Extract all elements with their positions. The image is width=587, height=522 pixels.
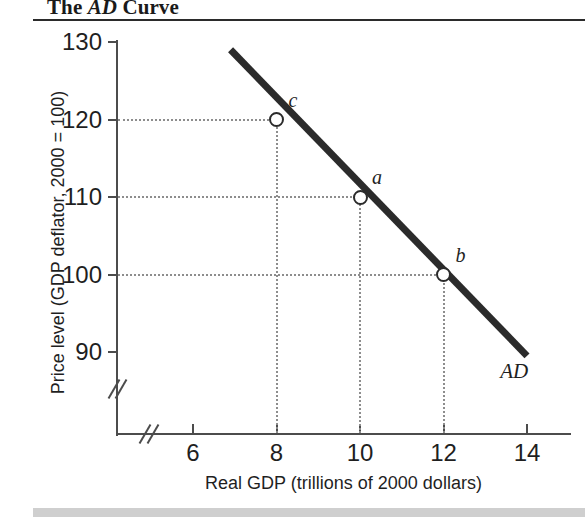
data-point-label-b: b [456, 245, 466, 265]
data-point-label-a: a [372, 167, 382, 187]
data-point-label-c: c [289, 90, 298, 110]
data-point-a[interactable] [353, 190, 368, 205]
ad-curve-label: AD [500, 361, 528, 382]
figure-footer-band [33, 508, 585, 517]
plot-area: 90100110120130 68101214 cab AD Price lev… [0, 0, 587, 522]
x-axis-title: Real GDP (trillions of 2000 dollars) [116, 473, 571, 494]
y-axis-title: Price level (GDP deflator, 2000 = 100) [48, 48, 69, 438]
ad-curve-line [231, 50, 527, 356]
data-point-b[interactable] [436, 267, 451, 282]
data-point-c[interactable] [269, 112, 284, 127]
figure-the-ad-curve: The AD Curve 90100110120130 68101214 cab… [0, 0, 587, 522]
ad-curve-svg [0, 0, 587, 522]
